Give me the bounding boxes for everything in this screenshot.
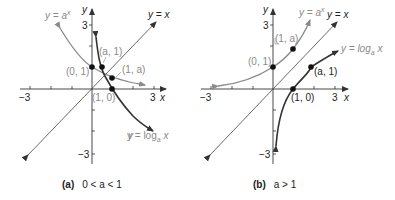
exponential-label: y = ax <box>44 9 71 21</box>
point-a-1 <box>99 64 105 70</box>
y-tick-3: 3 <box>82 20 88 31</box>
x-axis-label: x <box>343 92 350 103</box>
label-0-1: (0, 1) <box>66 66 89 77</box>
label-1-a: (1, a) <box>275 33 298 44</box>
label-a-1: (a, 1) <box>314 66 337 77</box>
identity-label: y = x <box>147 9 170 20</box>
x-tick-neg3: −3 <box>19 92 31 103</box>
point-1-a <box>109 75 115 81</box>
x-tick-3: 3 <box>150 92 156 103</box>
y-axis-label: y <box>262 4 269 15</box>
label-0-1: (0, 1) <box>248 56 271 67</box>
caption-b: (b)a > 1 <box>253 179 297 190</box>
point-a-1 <box>308 64 314 70</box>
logarithm-label: yy = loga x <box>127 130 169 143</box>
label-1-0: (1, 0) <box>92 92 115 103</box>
logarithm-label: y = loga x <box>340 43 383 56</box>
x-axis-label: x <box>159 92 166 103</box>
point-0-1 <box>89 64 95 70</box>
y-tick-neg3: −3 <box>78 149 90 160</box>
figure-canvas: y x −3 3 3 −3 y = ax y = x yy = loga x (… <box>0 0 395 200</box>
point-1-0 <box>109 86 115 92</box>
exponential-label: y = ax <box>298 6 325 18</box>
x-tick-3: 3 <box>332 92 338 103</box>
identity-label: y = x <box>326 9 349 20</box>
panel-a: y x −3 3 3 −3 y = ax y = x yy = loga x (… <box>19 4 170 190</box>
y-tick-neg3: −3 <box>259 149 271 160</box>
point-1-a <box>290 46 296 52</box>
y-axis-label: y <box>81 4 88 15</box>
panel-b: y x −3 3 3 −3 y = ax y = x y = loga x (0… <box>200 4 383 190</box>
label-a-1: (a, 1) <box>99 46 122 57</box>
caption-a: (a)0 < a < 1 <box>62 179 122 190</box>
x-tick-neg3: −3 <box>200 92 212 103</box>
label-1-a: (1, a) <box>122 64 145 75</box>
y-tick-3: 3 <box>263 20 269 31</box>
label-1-0: (1, 0) <box>291 92 314 103</box>
identity-line <box>210 22 337 155</box>
point-1-0 <box>290 86 296 92</box>
